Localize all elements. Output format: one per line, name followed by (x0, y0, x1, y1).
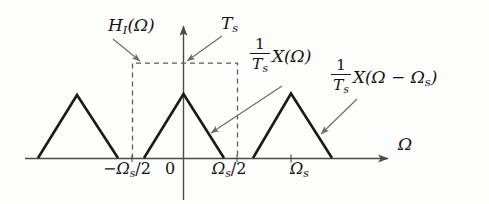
leader-line-filter (113, 39, 140, 61)
axis-tick-label-omega-s: Ωs (290, 161, 309, 180)
label-sampling-period-sub: s (232, 21, 238, 35)
figure-sampled-spectrum: HI(Ω) Ts 1 Ts X(Ω) 1 Ts X(Ω − Ωs) −Ωs/2 … (0, 0, 489, 204)
fraction-denominator-sub: s (262, 62, 267, 75)
leader-line-sampling-period (187, 36, 222, 61)
label-sampling-period: Ts (221, 15, 238, 35)
fraction-denominator: Ts (250, 55, 270, 75)
label-shifted-expression: X(Ω − Ω (353, 67, 425, 87)
label-sampling-period-text: T (221, 13, 232, 33)
fraction-denominator-text: T (252, 54, 262, 73)
tick-os-lead: Ω (290, 159, 303, 178)
axis-tick-label-zero: 0 (165, 161, 175, 177)
label-filter-hi-arg: (Ω) (127, 15, 154, 35)
spectrum-replica-right (253, 94, 332, 159)
axis-label-omega: Ω (398, 136, 412, 153)
label-shifted-replica: 1 Ts X(Ω − Ωs) (331, 57, 437, 96)
fraction-one-over-ts: 1 Ts (250, 36, 270, 75)
fraction-denominator-shifted: Ts (331, 76, 351, 96)
leader-line-shifted-replica (321, 99, 357, 134)
label-baseband-expression: X(Ω) (272, 46, 311, 66)
label-filter-hi-text: H (108, 15, 123, 35)
spectrum-replica-left (38, 95, 118, 158)
tick-pos-tail: /2 (231, 159, 247, 178)
fraction-denominator-shifted-text: T (333, 75, 343, 94)
axis-tick-label-neg-half-omega-s: −Ωs/2 (103, 161, 151, 180)
tick-pos-lead: Ω (212, 159, 225, 178)
fraction-denominator-shifted-sub: s (343, 83, 348, 96)
label-filter-hi: HI(Ω) (108, 17, 155, 37)
tick-zero-lead: 0 (165, 159, 175, 178)
tick-neg-lead: −Ω (103, 159, 130, 178)
fraction-numerator: 1 (250, 36, 270, 52)
label-baseband-replica: 1 Ts X(Ω) (250, 36, 311, 75)
tick-os-sub: s (303, 167, 309, 180)
axis-tick-label-half-omega-s: Ωs/2 (212, 161, 246, 180)
tick-neg-tail: /2 (135, 159, 151, 178)
interpolation-filter-rectangle (133, 63, 238, 159)
fraction-one-over-ts-shifted: 1 Ts (331, 57, 351, 96)
fraction-numerator-shifted: 1 (331, 57, 351, 73)
label-shifted-expression-tail: ) (431, 67, 438, 87)
